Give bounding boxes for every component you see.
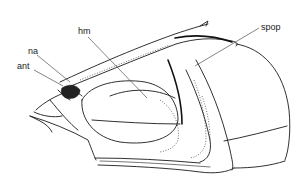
branchiostegal-1: [95, 158, 200, 163]
interopercle-lower: [234, 161, 285, 168]
subopercle-line: [224, 126, 287, 141]
infraorbital-canal: [160, 100, 178, 152]
preopercle-inner: [186, 70, 211, 162]
nasal-ethmoid-dark-mass: [61, 85, 80, 98]
anatomical-drawing: hm na ant spop: [0, 0, 299, 185]
label-ant: ant: [17, 62, 30, 71]
quadrate-strut: [92, 120, 180, 124]
label-hm: hm: [78, 27, 91, 36]
ventral-outline: [98, 165, 234, 173]
dentary: [30, 116, 96, 160]
leader-na: [37, 55, 70, 82]
skull-line-drawing: [0, 0, 299, 185]
leader-spop: [195, 28, 259, 66]
opercle-outline: [236, 44, 290, 160]
hyomandibula: [168, 60, 182, 124]
lower-jaw-tip: [30, 116, 52, 132]
skull-roof-lower: [66, 39, 238, 88]
orbit-outline: [82, 81, 178, 143]
leader-hm: [88, 37, 147, 98]
preopercle-sensory-canal: [190, 80, 206, 158]
premaxilla: [34, 112, 62, 117]
maxilla: [50, 100, 78, 130]
preopercle-outer: [196, 60, 233, 170]
supraorbital-canal: [80, 45, 170, 80]
label-spop: spop: [261, 23, 281, 32]
label-na: na: [28, 47, 38, 56]
